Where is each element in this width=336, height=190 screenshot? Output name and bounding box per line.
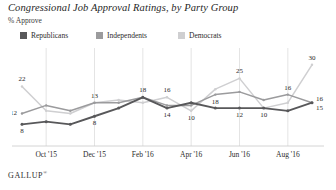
data-point [311,64,313,66]
data-point [287,93,289,95]
line-chart-svg: 88141215121318181616221610251030 [12,48,324,148]
data-point [262,99,264,101]
chart-title: Congressional Job Approval Ratings, by P… [8,2,238,13]
data-point [21,85,23,87]
data-point [190,101,193,104]
data-point [45,110,47,112]
chart-subtitle: % Approve [8,16,42,25]
data-point [238,107,241,110]
data-label: 25 [236,67,244,75]
data-point [142,102,144,104]
legend-swatch-independents [96,32,103,39]
x-axis: Oct '15Dec '15Feb '16Apr '16Jun '16Aug '… [12,150,324,164]
data-point [214,88,216,90]
data-label: 15 [316,104,324,112]
legend-item-democrats: Democrats [178,29,222,41]
x-axis-tick-label: Aug '16 [276,150,300,159]
data-point [69,110,71,112]
data-point [93,115,96,118]
data-point [190,110,192,112]
data-point [166,96,168,98]
data-point [93,102,95,104]
data-label: 10 [260,111,268,119]
footer-brand: GALLUP® [8,170,48,180]
data-point [117,99,119,101]
legend-swatch-republicans [20,32,27,39]
data-label: 16 [284,84,292,92]
legend-label-democrats: Democrats [189,31,222,40]
plot-area: 88141215121318181616221610251030 [12,48,324,148]
legend-swatch-democrats [178,32,185,39]
data-point [21,112,23,114]
data-label: 8 [20,127,24,135]
data-point [166,104,168,106]
x-axis-tick-label: Dec '15 [83,150,106,159]
data-label: 18 [212,98,220,106]
data-point [69,112,71,114]
x-axis-tick-label: Jun '16 [229,150,250,159]
data-point [69,123,72,126]
data-point [117,102,119,104]
chart-container: Congressional Job Approval Ratings, by P… [0,0,336,190]
data-point [117,107,120,110]
legend-item-republicans: Republicans [20,29,68,41]
data-point [262,107,265,110]
data-point [141,96,144,99]
data-point [287,102,289,104]
data-point [45,104,47,106]
data-label: 12 [236,111,244,119]
data-point [238,91,240,93]
data-point [166,107,169,110]
data-label: 16 [164,86,172,94]
data-point [238,77,240,79]
footer-registered-mark: ® [43,170,47,175]
data-point [45,120,48,123]
data-label: 22 [19,75,27,83]
data-label: 30 [309,54,317,62]
data-point [286,109,289,112]
data-label: 16 [316,95,324,103]
data-label: 14 [164,111,172,119]
footer-brand-text: GALLUP [8,171,43,180]
data-label: 10 [188,114,196,122]
x-axis-tick-label: Oct '15 [35,150,57,159]
data-label: 13 [91,92,99,100]
legend-label-independents: Independents [107,31,147,40]
legend-label-republicans: Republicans [31,31,68,40]
data-label: 8 [93,119,97,127]
data-point [311,101,314,104]
legend-item-independents: Independents [96,29,147,41]
data-point [21,123,24,126]
data-label: 12 [12,109,18,117]
data-label: 18 [139,86,147,94]
x-axis-tick-label: Feb '16 [132,150,154,159]
data-point [190,104,192,106]
data-point [214,107,217,110]
data-point [214,93,216,95]
x-axis-tick-label: Apr '16 [180,150,202,159]
